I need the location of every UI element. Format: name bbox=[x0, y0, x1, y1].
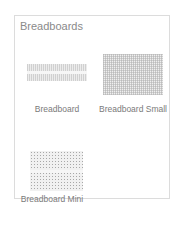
part-label: Breadboard bbox=[20, 104, 94, 114]
part-label: Breadboard Mini bbox=[19, 194, 85, 204]
breadboard-small-icon[interactable] bbox=[103, 54, 163, 95]
panel-title: Breadboards bbox=[20, 20, 83, 32]
part-label: Breadboard Small bbox=[96, 104, 170, 114]
breadboard-mini-icon[interactable] bbox=[30, 151, 83, 191]
breadboards-panel: Breadboards Breadboard Breadboard Small … bbox=[14, 15, 170, 199]
breadboard-full-icon[interactable] bbox=[27, 64, 87, 81]
